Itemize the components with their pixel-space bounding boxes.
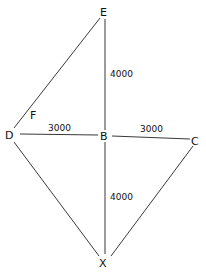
- point-label-x: X: [99, 257, 107, 270]
- point-label-d: D: [5, 129, 13, 142]
- length-label-db: 3000: [48, 123, 71, 133]
- length-label-bc: 3000: [140, 124, 163, 134]
- point-label-f: F: [30, 109, 36, 122]
- point-label-c: C: [191, 135, 199, 148]
- point-label-e: E: [100, 6, 107, 19]
- edge-d-e: [14, 18, 100, 128]
- geometry-diagram: E D B C X F 4000 3000 3000 4000: [0, 0, 206, 272]
- edge-d-x: [14, 142, 99, 256]
- length-label-bx: 4000: [110, 192, 133, 202]
- point-label-b: B: [100, 130, 108, 143]
- length-label-eb: 4000: [110, 69, 133, 79]
- edge-d-b: [20, 134, 98, 135]
- edge-b-c: [112, 136, 190, 139]
